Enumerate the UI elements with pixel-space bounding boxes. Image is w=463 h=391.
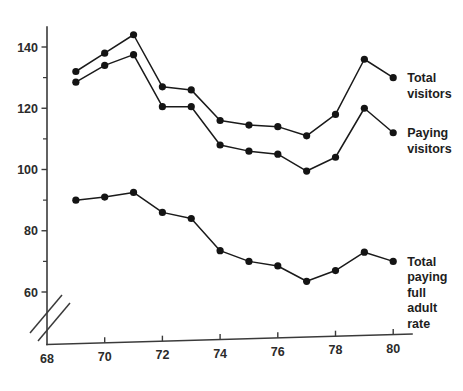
x-tick-label: 80: [386, 342, 400, 356]
y-axis-ticks: 6080100120140: [17, 41, 47, 300]
data-point-marker: [130, 31, 137, 38]
series-label-line: full: [407, 286, 426, 300]
series-2: [72, 51, 397, 175]
data-point-marker: [332, 267, 339, 274]
data-point-marker: [101, 193, 108, 200]
data-point-marker: [72, 68, 79, 75]
data-point-marker: [188, 103, 195, 110]
data-point-marker: [390, 74, 397, 81]
data-point-marker: [130, 189, 137, 196]
data-point-marker: [72, 197, 79, 204]
data-point-marker: [159, 209, 166, 216]
x-tick-label: 68: [40, 352, 54, 366]
axis-break-slash-1: [30, 295, 62, 333]
x-tick-label: 70: [98, 350, 112, 364]
data-point-marker: [217, 117, 224, 124]
series-line: [76, 55, 393, 171]
series-label-3: Totalpayingfulladultrate: [407, 255, 447, 331]
data-point-marker: [188, 86, 195, 93]
series-labels-group: TotalvisitorsPayingvisitorsTotalpayingfu…: [407, 71, 452, 331]
series-line: [76, 35, 393, 136]
x-axis-line: [47, 334, 412, 345]
data-point-marker: [332, 111, 339, 118]
data-point-marker: [361, 105, 368, 112]
series-3: [72, 189, 397, 285]
data-point-marker: [390, 258, 397, 265]
x-tick-label: 72: [155, 348, 169, 362]
data-point-marker: [274, 262, 281, 269]
y-tick-label: 60: [24, 286, 38, 300]
series-label-line: rate: [407, 317, 430, 331]
data-point-marker: [130, 51, 137, 58]
series-label-line: paying: [407, 270, 447, 284]
data-point-marker: [217, 141, 224, 148]
y-axis-break-icon: [30, 295, 70, 341]
data-point-marker: [274, 151, 281, 158]
data-point-marker: [159, 103, 166, 110]
y-tick-label: 100: [17, 163, 38, 177]
data-point-marker: [217, 247, 224, 254]
series-label-line: visitors: [407, 142, 452, 156]
x-tick-label: 76: [271, 345, 285, 359]
data-point-marker: [159, 83, 166, 90]
series-line: [76, 192, 393, 281]
data-point-marker: [361, 56, 368, 63]
data-point-marker: [303, 278, 310, 285]
series-label-line: adult: [407, 301, 438, 315]
data-point-marker: [72, 79, 79, 86]
data-point-marker: [245, 121, 252, 128]
data-point-marker: [303, 167, 310, 174]
data-point-marker: [361, 249, 368, 256]
data-series-group: [72, 31, 397, 285]
data-point-marker: [101, 62, 108, 69]
data-point-marker: [245, 258, 252, 265]
y-tick-label: 120: [17, 102, 38, 116]
data-point-marker: [274, 123, 281, 130]
series-label-line: visitors: [407, 87, 452, 101]
data-point-marker: [101, 50, 108, 57]
series-label-2: Payingvisitors: [407, 126, 452, 156]
y-tick-label: 140: [17, 41, 38, 55]
data-point-marker: [390, 129, 397, 136]
data-point-marker: [303, 132, 310, 139]
chart-canvas: 6080100120140 68707274767880 Totalvisito…: [0, 0, 463, 391]
series-label-1: Totalvisitors: [407, 71, 452, 101]
x-tick-label: 74: [213, 347, 227, 361]
axis-break-slash-2: [38, 303, 70, 341]
series-label-line: Total: [407, 255, 436, 269]
x-tick-label: 78: [329, 343, 343, 357]
line-chart: 6080100120140 68707274767880 Totalvisito…: [0, 0, 463, 391]
axes: [47, 27, 412, 345]
data-point-marker: [332, 154, 339, 161]
x-axis-ticks: 68707274767880: [40, 329, 400, 365]
y-tick-label: 80: [24, 224, 38, 238]
series-label-line: Paying: [407, 126, 448, 140]
data-point-marker: [188, 215, 195, 222]
series-1: [72, 31, 397, 139]
data-point-marker: [245, 148, 252, 155]
series-label-line: Total: [407, 71, 436, 85]
